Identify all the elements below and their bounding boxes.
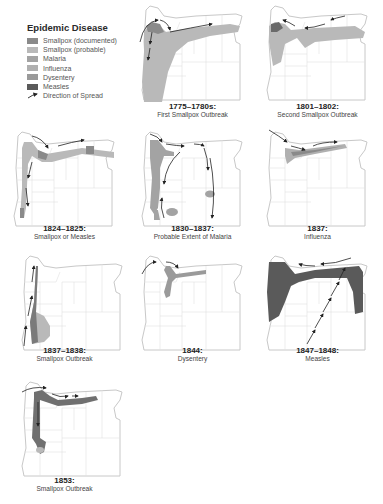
caption-desc: Measles	[255, 355, 380, 363]
legend-label: Smallpox (probable)	[43, 46, 106, 53]
caption-desc: Smallpox Outbreak	[2, 485, 127, 493]
oregon-map	[130, 252, 255, 352]
swatch-measles	[27, 84, 38, 90]
legend-label: Dysentery	[43, 74, 75, 81]
caption-year: 1837:	[255, 224, 380, 233]
legend-item-dysentery: Dysentery	[27, 73, 127, 82]
map-panel-1830: 1830–1837: Probable Extent of Malaria	[130, 128, 255, 250]
legend-item-malaria: Malaria	[27, 54, 127, 63]
legend-label: Influenza	[43, 65, 71, 72]
swatch-malaria	[27, 56, 38, 62]
caption: 1824–1825: Smallpox or Measles	[2, 224, 127, 241]
map-panel-1844: 1844: Dysentery	[130, 252, 255, 374]
caption: 1830–1837: Probable Extent of Malaria	[130, 224, 255, 241]
oregon-map	[2, 128, 127, 228]
oregon-map	[2, 252, 127, 352]
caption-year: 1847–1848:	[255, 346, 380, 355]
caption-desc: Dysentery	[130, 355, 255, 363]
caption: 1844: Dysentery	[130, 346, 255, 363]
oregon-map	[255, 252, 380, 352]
legend-item-smallpox-probable: Smallpox (probable)	[27, 45, 127, 54]
map-panel-1837-smallpox: 1837–1838: Smallpox Outbreak	[2, 252, 127, 374]
swatch-dysentery	[27, 74, 38, 80]
caption-desc: Influenza	[255, 233, 380, 241]
legend-item-influenza: Influenza	[27, 64, 127, 73]
swatch-smallpox-probable	[27, 47, 38, 53]
caption-desc: First Smallpox Outbreak	[130, 111, 255, 119]
legend: Epidemic Disease Smallpox (documented) S…	[27, 22, 127, 100]
legend-item-measles: Measles	[27, 82, 127, 91]
caption-desc: Smallpox Outbreak	[2, 355, 127, 363]
caption: 1853: Smallpox Outbreak	[2, 476, 127, 493]
caption: 1837–1838: Smallpox Outbreak	[2, 346, 127, 363]
caption-desc: Smallpox or Measles	[2, 233, 127, 241]
caption-year: 1837–1838:	[2, 346, 127, 355]
arrow-icon	[27, 92, 39, 99]
swatch-smallpox-documented	[27, 38, 38, 44]
oregon-map	[2, 378, 127, 478]
caption-year: 1830–1837:	[130, 224, 255, 233]
oregon-map	[130, 128, 255, 228]
map-panel-1824: 1824–1825: Smallpox or Measles	[2, 128, 127, 250]
map-panel-1801: 1801–1802: Second Smallpox Outbreak	[255, 2, 380, 124]
caption-year: 1853:	[2, 476, 127, 485]
caption-year: 1775–1780s:	[130, 102, 255, 111]
map-panel-1847: 1847–1848: Measles	[255, 252, 380, 374]
caption: 1847–1848: Measles	[255, 346, 380, 363]
legend-title: Epidemic Disease	[27, 22, 127, 33]
caption-year: 1844:	[130, 346, 255, 355]
legend-label: Smallpox (documented)	[43, 37, 117, 44]
legend-label: Malaria	[43, 55, 66, 62]
map-panel-1837-influenza: 1837: Influenza	[255, 128, 380, 250]
legend-label: Direction of Spread	[43, 92, 103, 99]
caption-desc: Probable Extent of Malaria	[130, 233, 255, 241]
caption: 1837: Influenza	[255, 224, 380, 241]
oregon-map	[255, 128, 380, 228]
legend-item-smallpox-documented: Smallpox (documented)	[27, 36, 127, 45]
oregon-map	[255, 2, 380, 102]
caption: 1801–1802: Second Smallpox Outbreak	[255, 102, 380, 119]
legend-label: Measles	[43, 83, 69, 90]
legend-item-direction: Direction of Spread	[27, 91, 127, 100]
map-panel-1775: 1775–1780s: First Smallpox Outbreak	[130, 2, 255, 124]
caption-desc: Second Smallpox Outbreak	[255, 111, 380, 119]
caption-year: 1801–1802:	[255, 102, 380, 111]
oregon-map	[130, 2, 255, 102]
map-panel-1853: 1853: Smallpox Outbreak	[2, 378, 127, 500]
caption: 1775–1780s: First Smallpox Outbreak	[130, 102, 255, 119]
caption-year: 1824–1825:	[2, 224, 127, 233]
swatch-influenza	[27, 65, 38, 71]
